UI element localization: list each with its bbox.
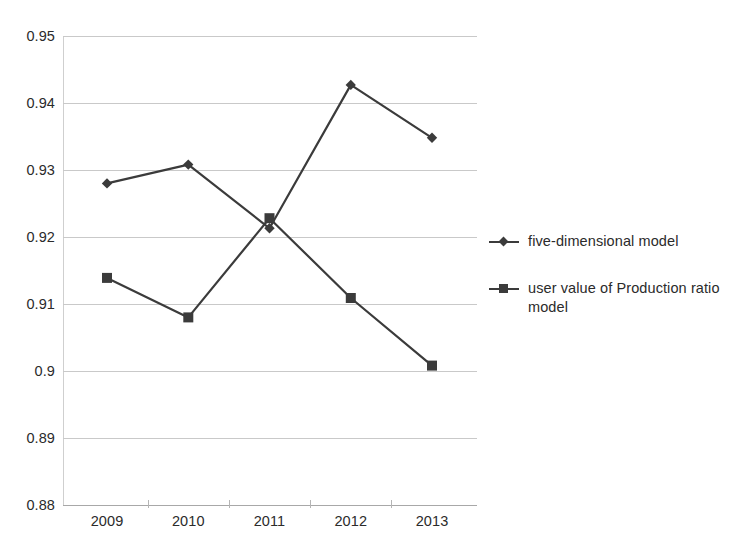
y-axis-labels: 0.950.940.930.920.910.90.890.88 — [0, 0, 55, 555]
x-tick-label-2010: 2010 — [172, 513, 205, 529]
y-tick-label-0.88: 0.88 — [26, 497, 55, 513]
legend-entry-five-dimensional-model[interactable]: five-dimensional model — [489, 232, 724, 251]
chart-page: 0.950.940.930.920.910.90.890.88 five-dim… — [0, 0, 733, 555]
y-tick-label-0.95: 0.95 — [26, 28, 55, 44]
x-tick-label-2013: 2013 — [416, 513, 449, 529]
legend-diamond-marker-icon — [489, 233, 519, 251]
legend-entry-user-value-of-production-ratio-model[interactable]: user value of Production ratio model — [489, 279, 724, 317]
plot-area — [63, 36, 477, 505]
y-tick-label-0.93: 0.93 — [26, 162, 55, 178]
gridline-0.93 — [63, 170, 477, 171]
legend-label-five-dimensional-model: five-dimensional model — [528, 232, 679, 251]
x-axis-tick — [391, 500, 392, 508]
y-tick-label-0.89: 0.89 — [26, 430, 55, 446]
x-axis-tick — [310, 500, 311, 508]
gridline-0.92 — [63, 237, 477, 238]
gridline-0.9 — [63, 371, 477, 372]
x-tick-label-2012: 2012 — [334, 513, 367, 529]
x-tick-label-2011: 2011 — [254, 513, 286, 529]
y-tick-label-0.92: 0.92 — [26, 229, 55, 245]
x-axis-tick — [148, 500, 149, 508]
legend-label-user-value-of-production-ratio-model: user value of Production ratio model — [528, 279, 724, 317]
gridline-0.89 — [63, 438, 477, 439]
y-tick-label-0.9: 0.9 — [35, 363, 55, 379]
x-tick-label-2009: 2009 — [91, 513, 124, 529]
y-tick-label-0.94: 0.94 — [26, 95, 55, 111]
gridline-0.94 — [63, 103, 477, 104]
gridline-0.91 — [63, 304, 477, 305]
x-axis-tick — [229, 500, 230, 508]
y-tick-label-0.91: 0.91 — [26, 296, 55, 312]
chart-legend: five-dimensional model user value of Pro… — [489, 232, 724, 345]
legend-square-marker-icon — [489, 280, 519, 298]
gridline-0.88 — [63, 505, 477, 506]
gridline-0.95 — [63, 36, 477, 37]
